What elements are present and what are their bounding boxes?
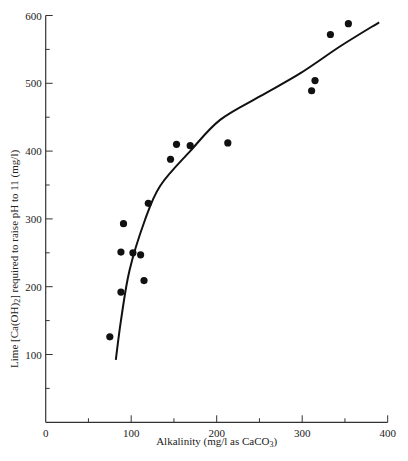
- data-point: [173, 141, 180, 148]
- y-axis-title: Lime [Ca(OH)2] required to raise pH to 1…: [8, 150, 22, 368]
- data-point: [129, 249, 136, 256]
- y-tick-label: 300: [25, 213, 42, 225]
- data-point: [106, 333, 113, 340]
- data-point: [224, 139, 231, 146]
- axes: 0100200300400100200300400500600Alkalinit…: [8, 10, 396, 450]
- data-point: [187, 142, 194, 149]
- data-point: [140, 277, 147, 284]
- chart-canvas: 0100200300400100200300400500600Alkalinit…: [0, 0, 408, 461]
- data-point: [327, 31, 334, 38]
- x-tick-label: 0: [43, 427, 49, 439]
- x-axis-title: Alkalinity (mg/l as CaCO3): [156, 435, 277, 449]
- data-point: [308, 87, 315, 94]
- x-tick-label: 400: [379, 427, 396, 439]
- data-point: [137, 251, 144, 258]
- y-tick-label: 100: [25, 349, 42, 361]
- plot-area: [106, 20, 379, 360]
- y-tick-label: 400: [25, 145, 42, 157]
- x-tick-label: 300: [294, 427, 311, 439]
- data-point: [167, 156, 174, 163]
- data-point: [120, 220, 127, 227]
- x-tick-label: 100: [123, 427, 140, 439]
- data-point: [345, 20, 352, 27]
- y-tick-label: 600: [25, 10, 42, 22]
- data-point: [311, 77, 318, 84]
- fitted-curve: [116, 22, 379, 360]
- y-tick-label: 200: [25, 281, 42, 293]
- data-point: [117, 249, 124, 256]
- data-point: [117, 289, 124, 296]
- y-tick-label: 500: [25, 77, 42, 89]
- data-point: [145, 200, 152, 207]
